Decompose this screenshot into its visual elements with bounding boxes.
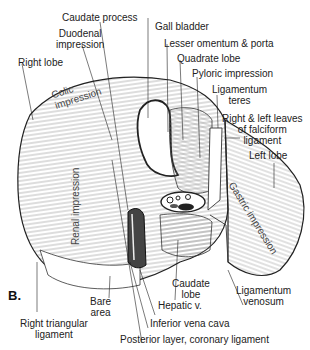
label-left-lobe: Left lobe xyxy=(249,150,287,161)
bare-line-2: area xyxy=(90,307,111,318)
label-hepatic-v: Hepatic v. xyxy=(158,300,202,311)
venosum-line-2: venosum xyxy=(236,296,291,307)
label-falciform-ligament: Right & left leaves of falciform ligamen… xyxy=(222,113,303,146)
venosum-line-1: Ligamentum xyxy=(236,285,291,296)
falciform-line-3: ligament xyxy=(222,135,303,146)
label-gall-bladder: Gall bladder xyxy=(155,21,209,32)
label-ligamentum-teres: Ligamentum teres xyxy=(212,84,267,106)
falciform-line-1: Right & left leaves xyxy=(222,113,303,124)
duodenal-line-1: Duodenal xyxy=(56,28,104,39)
falciform-line-2: of falciform xyxy=(222,124,303,135)
bare-line-1: Bare xyxy=(90,296,111,307)
label-right-triangular-ligament: Right triangular ligament xyxy=(20,318,88,340)
quadrate-lobe-shape xyxy=(169,108,212,194)
duodenal-line-2: impression xyxy=(56,39,104,50)
triangular-line-1: Right triangular xyxy=(20,318,88,329)
panel-label: B. xyxy=(8,288,21,303)
liver-diagram: Colic impression Renal impression Gastri… xyxy=(0,0,310,350)
label-duodenal-impression: Duodenal impression xyxy=(56,28,104,50)
label-caudate-process: Caudate process xyxy=(62,12,138,23)
label-pyloric-impression: Pyloric impression xyxy=(192,68,273,79)
label-inferior-vena-cava: Inferior vena cava xyxy=(150,318,230,329)
teres-line-1: Ligamentum xyxy=(212,84,267,95)
label-quadrate-lobe: Quadrate lobe xyxy=(177,53,240,64)
ligamentum-teres-shape xyxy=(208,128,222,210)
teres-line-2: teres xyxy=(212,95,267,106)
caudate-lobe-line-2: lobe xyxy=(172,289,210,300)
label-ligamentum-venosum: Ligamentum venosum xyxy=(236,285,291,307)
renal-impression-label: Renal impression xyxy=(70,168,81,245)
label-bare-area: Bare area xyxy=(90,296,111,318)
caudate-lobe-shape xyxy=(160,214,212,257)
label-lesser-omentum: Lesser omentum & porta xyxy=(164,38,274,49)
triangular-line-2: ligament xyxy=(20,329,88,340)
ivc-shape xyxy=(128,209,146,268)
caudate-lobe-line-1: Caudate xyxy=(172,278,210,289)
label-right-lobe: Right lobe xyxy=(18,57,63,68)
label-caudate-lobe: Caudate lobe xyxy=(172,278,210,300)
label-posterior-layer-coronary: Posterior layer, coronary ligament xyxy=(120,334,269,345)
